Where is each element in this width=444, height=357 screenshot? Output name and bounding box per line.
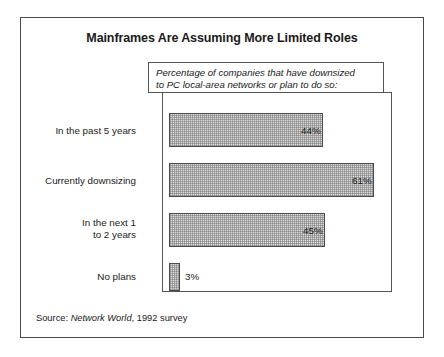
source-suffix: , 1992 survey bbox=[132, 313, 188, 323]
bar bbox=[169, 263, 180, 291]
bar-value-label: 3% bbox=[185, 271, 199, 282]
source-publication: Network World bbox=[71, 313, 132, 323]
source-note: Source: Network World, 1992 survey bbox=[36, 313, 187, 323]
bar-value-label: 61% bbox=[352, 175, 372, 186]
bar-category-label: Currently downsizing bbox=[0, 175, 148, 187]
bar-value-label: 45% bbox=[303, 225, 323, 236]
bar bbox=[169, 213, 325, 247]
bar-value-label: 44% bbox=[301, 125, 321, 136]
page-title: Mainframes Are Assuming More Limited Rol… bbox=[20, 31, 424, 45]
bar-category-label: No plans bbox=[0, 271, 148, 283]
bar-category-label: In the next 1 to 2 years bbox=[0, 217, 148, 241]
caption-callout-box: Percentage of companies that have downsi… bbox=[148, 62, 384, 93]
bar bbox=[169, 163, 374, 197]
bar bbox=[169, 113, 323, 147]
source-prefix: Source: bbox=[36, 313, 68, 323]
chart-figure: Mainframes Are Assuming More Limited Rol… bbox=[0, 0, 444, 357]
caption-text: Percentage of companies that have downsi… bbox=[156, 67, 377, 90]
bar-category-label: In the past 5 years bbox=[0, 125, 148, 137]
